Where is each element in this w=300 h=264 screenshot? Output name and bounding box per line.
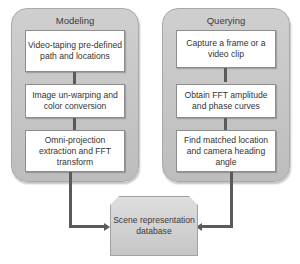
modeling-step-1: Video-taping pre-defined path and locati… [25,30,125,72]
connector-modeling-to-db-vertical [69,172,72,228]
querying-step-1: Capture a frame or a video clip [176,30,276,68]
querying-step-3: Find matched location and camera heading… [176,130,276,172]
connector-querying-to-db-vertical [230,172,233,228]
connector-querying-2-3 [224,118,227,130]
modeling-step-2: Image un-warping and color conversion [25,84,125,118]
connector-modeling-1-2 [73,72,76,84]
connector-modeling-to-db-horizontal [69,225,105,228]
querying-title: Querying [163,15,289,26]
modeling-title: Modeling [12,15,138,26]
connector-querying-to-db-horizontal [202,225,233,228]
modeling-step-3: Omni-projection extraction and FFT trans… [25,130,125,172]
scene-database-box: Scene representation database [110,196,198,256]
connector-modeling-2-3 [73,118,76,130]
arrow-right-icon [104,223,110,231]
querying-step-2: Obtain FFT amplitude and phase curves [176,84,276,118]
connector-querying-1-2 [224,68,227,82]
